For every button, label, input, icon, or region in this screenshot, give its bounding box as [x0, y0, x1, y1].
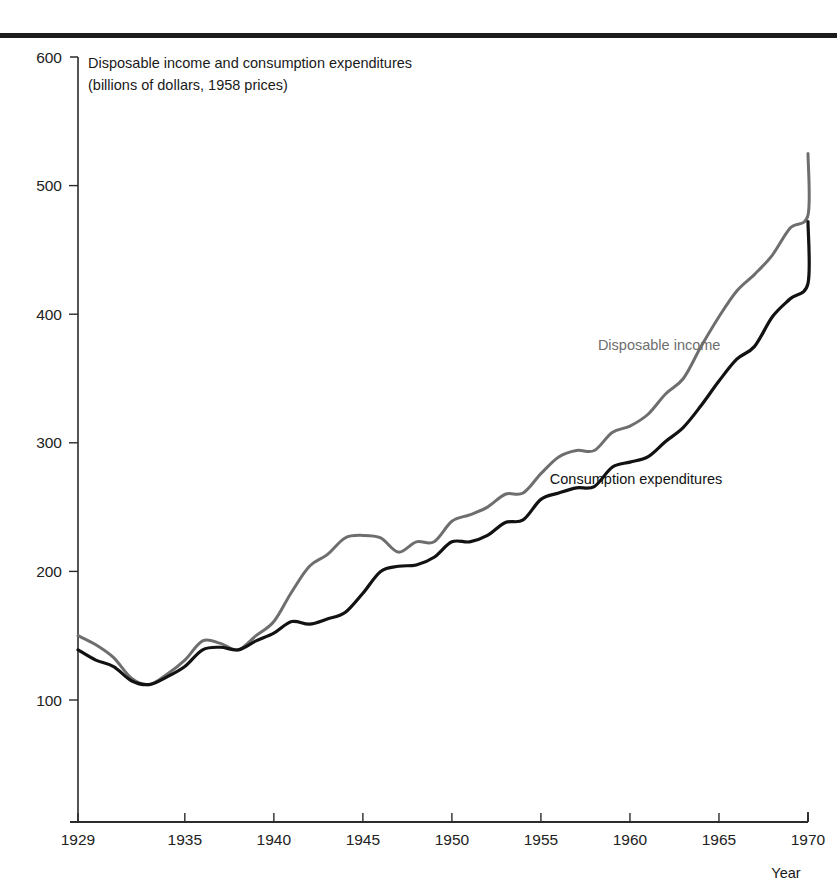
y-axis-tick-label: 400 [36, 306, 62, 323]
x-axis-tick-label: 1965 [702, 831, 736, 848]
axes-group: 100200300400500600 192919351940194519501… [36, 49, 825, 849]
y-axis-tick-label: 600 [36, 49, 62, 66]
x-axis-tick-label: 1929 [61, 831, 95, 848]
x-axis-tick-label: 1945 [346, 831, 380, 848]
y-axis-tick-labels: 100200300400500600 [36, 49, 62, 709]
y-axis-ticks [69, 186, 78, 700]
series-lines-group [78, 153, 809, 684]
x-axis-tick-label: 1960 [613, 831, 648, 848]
chart-page: 100200300400500600 192919351940194519501… [0, 0, 837, 887]
x-axis-ticks [78, 813, 808, 822]
x-axis-tick-label: 1935 [168, 831, 202, 848]
series-line [78, 222, 809, 685]
x-axis-tick-label: 1970 [791, 831, 826, 848]
y-axis-tick-label: 200 [36, 563, 62, 580]
series-label: Disposable income [598, 337, 721, 353]
y-axis-line [70, 57, 78, 822]
line-chart: 100200300400500600 192919351940194519501… [0, 0, 837, 887]
x-axis-label: Year [771, 865, 800, 881]
x-axis-line [70, 812, 808, 822]
y-axis-tick-label: 500 [36, 177, 62, 194]
series-line [78, 153, 809, 684]
x-axis-tick-label: 1940 [257, 831, 292, 848]
series-label: Consumption expenditures [550, 471, 723, 487]
y-axis-tick-label: 100 [36, 692, 62, 709]
x-axis-tick-label: 1955 [524, 831, 558, 848]
x-axis-tick-label: 1950 [435, 831, 470, 848]
x-axis-tick-labels: 192919351940194519501955196019651970 [61, 831, 826, 848]
chart-subtitle: (billions of dollars, 1958 prices) [88, 77, 288, 93]
chart-title: Disposable income and consumption expend… [88, 55, 412, 71]
y-axis-tick-label: 300 [36, 434, 62, 451]
